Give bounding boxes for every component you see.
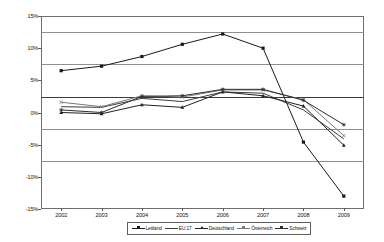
legend-swatch-icon xyxy=(275,225,288,232)
series-layer xyxy=(0,0,384,242)
legend-entry-österreich[interactable]: Österreich xyxy=(237,225,272,232)
series-line xyxy=(61,34,344,196)
data-point-marker xyxy=(140,94,144,98)
data-point-marker xyxy=(221,87,225,91)
data-point-marker xyxy=(100,111,104,115)
legend-label: EU 17 xyxy=(179,226,192,232)
legend-entry-eu-17[interactable]: EU 17 xyxy=(165,225,192,232)
data-point-marker xyxy=(100,65,103,68)
data-point-marker xyxy=(302,140,305,143)
data-point-marker xyxy=(59,108,63,112)
data-point-marker xyxy=(342,123,346,127)
legend-label: Österreich xyxy=(251,226,272,232)
line-chart: 15%10%5%0%-5%-10%-15% 200220032004200520… xyxy=(0,0,384,242)
legend-entry-lettland[interactable]: Lettland xyxy=(132,225,162,232)
data-point-marker xyxy=(221,32,224,35)
legend-swatch-icon xyxy=(165,225,178,232)
legend-swatch-icon xyxy=(132,225,145,232)
legend-label: Deutschland xyxy=(209,226,235,232)
data-point-marker xyxy=(261,47,264,50)
data-point-marker xyxy=(342,134,345,137)
legend-swatch-icon xyxy=(237,225,250,232)
data-point-marker xyxy=(261,87,265,91)
data-point-marker xyxy=(181,43,184,46)
data-point-marker xyxy=(301,98,305,102)
legend-entry-deutschland[interactable]: Deutschland xyxy=(195,225,235,232)
legend-entry-schweiz[interactable]: Schweiz xyxy=(275,225,306,232)
legend-label: Lettland xyxy=(146,226,162,232)
data-point-marker xyxy=(140,55,143,58)
data-point-marker xyxy=(180,94,184,98)
legend-swatch-icon xyxy=(195,225,208,232)
data-point-marker xyxy=(342,195,345,198)
legend-label: Schweiz xyxy=(289,226,306,232)
chart-legend: LettlandEU 17DeutschlandÖsterreichSchwei… xyxy=(127,222,311,235)
data-point-marker xyxy=(60,69,63,72)
